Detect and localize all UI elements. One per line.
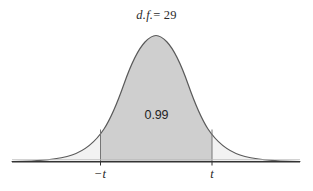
chart-title: d.f.= 29: [0, 9, 313, 22]
t-distribution-figure: d.f.= 29 0.99 −t t: [0, 0, 313, 191]
central-area-label: 0.99: [0, 109, 313, 122]
right-critical-value-label: t: [198, 168, 226, 181]
chart-title-symbol: d.f.: [136, 8, 153, 22]
distribution-plot: [0, 0, 313, 191]
central-confidence-region: [12, 36, 300, 162]
left-critical-value-label: −t: [86, 168, 114, 181]
chart-title-value: = 29: [153, 8, 176, 22]
